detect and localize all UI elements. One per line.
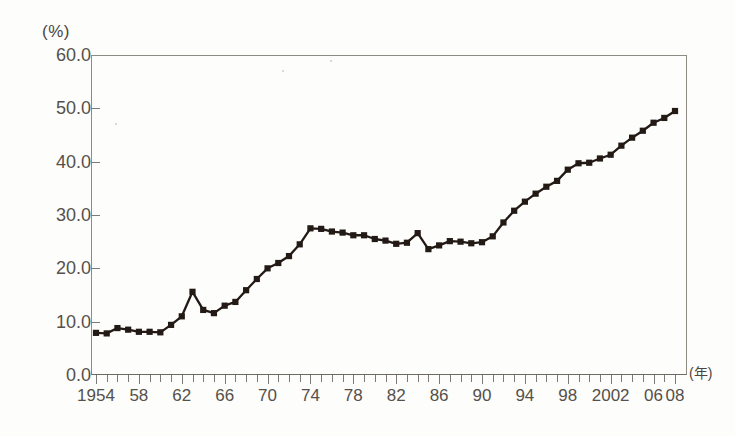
x-axis-minor-tick-mark — [643, 375, 644, 382]
x-axis-major-tick-mark — [675, 375, 676, 384]
y-axis-tick-label: 50.0 — [39, 98, 91, 119]
x-axis-minor-tick-mark — [461, 375, 462, 382]
y-axis-tick-label: 0.0 — [39, 365, 91, 386]
x-axis-minor-tick-mark — [664, 375, 665, 382]
x-axis-major-tick-mark — [439, 375, 440, 384]
x-axis-major-tick-mark — [139, 375, 140, 384]
y-axis: 0.010.020.030.040.050.060.0 — [30, 0, 91, 436]
y-axis-tick-label: 30.0 — [39, 205, 91, 226]
x-axis-major-tick-mark — [225, 375, 226, 384]
x-axis-tick-label: 08 — [666, 386, 685, 406]
x-axis-minor-tick-mark — [107, 375, 108, 382]
x-axis-minor-tick-mark — [546, 375, 547, 382]
x-axis-major-tick-mark — [482, 375, 483, 384]
x-axis-minor-tick-mark — [235, 375, 236, 382]
x-axis-tick-label: 06 — [644, 386, 663, 406]
y-axis-tick-label: 60.0 — [39, 45, 91, 66]
x-axis-minor-tick-mark — [214, 375, 215, 382]
x-axis-tick-label: 70 — [258, 386, 277, 406]
y-axis-tick-mark — [91, 268, 100, 269]
y-axis-tick-label: 10.0 — [39, 311, 91, 332]
x-axis-major-tick-mark — [268, 375, 269, 384]
x-axis-major-tick-mark — [396, 375, 397, 384]
x-axis-tick-label: 98 — [558, 386, 577, 406]
x-axis-minor-tick-mark — [514, 375, 515, 382]
x-axis-minor-tick-mark — [364, 375, 365, 382]
x-axis-minor-tick-mark — [278, 375, 279, 382]
x-axis-tick-label: 90 — [473, 386, 492, 406]
x-axis-minor-tick-mark — [589, 375, 590, 382]
x-axis-major-tick-mark — [611, 375, 612, 384]
scan-speck — [330, 60, 332, 62]
x-axis-minor-tick-mark — [193, 375, 194, 382]
x-axis-minor-tick-mark — [289, 375, 290, 382]
x-axis-minor-tick-mark — [150, 375, 151, 382]
x-axis-minor-tick-mark — [117, 375, 118, 382]
x-axis-tick-label: 78 — [344, 386, 363, 406]
x-axis-minor-tick-mark — [160, 375, 161, 382]
x-axis-minor-tick-mark — [632, 375, 633, 382]
x-axis-minor-tick-mark — [418, 375, 419, 382]
x-axis-minor-tick-mark — [321, 375, 322, 382]
x-axis-minor-tick-mark — [428, 375, 429, 382]
x-axis-minor-tick-mark — [300, 375, 301, 382]
x-axis-major-tick-mark — [525, 375, 526, 384]
chart-container: (%) 0.010.020.030.040.050.060.0 19545862… — [0, 0, 735, 436]
plot-area — [91, 55, 687, 375]
x-axis-minor-tick-mark — [171, 375, 172, 382]
x-axis-tick-label: 86 — [430, 386, 449, 406]
x-axis-minor-tick-mark — [128, 375, 129, 382]
x-axis-minor-tick-mark — [600, 375, 601, 382]
x-axis-tick-label: 74 — [301, 386, 320, 406]
x-axis-minor-tick-mark — [257, 375, 258, 382]
y-axis-tick-mark — [91, 108, 100, 109]
x-axis-major-tick-mark — [96, 375, 97, 384]
x-axis-tick-label: 58 — [129, 386, 148, 406]
x-axis-major-tick-mark — [654, 375, 655, 384]
x-axis-tick-label: 62 — [172, 386, 191, 406]
x-axis-major-tick-mark — [182, 375, 183, 384]
x-axis-tick-label: 1954 — [77, 386, 115, 406]
x-axis-minor-tick-mark — [557, 375, 558, 382]
x-axis-major-tick-mark — [310, 375, 311, 384]
x-axis-minor-tick-mark — [407, 375, 408, 382]
x-axis-minor-tick-mark — [332, 375, 333, 382]
x-axis-minor-tick-mark — [621, 375, 622, 382]
x-axis-minor-tick-mark — [386, 375, 387, 382]
x-axis-minor-tick-mark — [343, 375, 344, 382]
x-axis-tick-label: 82 — [387, 386, 406, 406]
y-axis-tick-label: 40.0 — [39, 151, 91, 172]
x-axis-major-tick-mark — [353, 375, 354, 384]
x-axis-minor-tick-mark — [471, 375, 472, 382]
x-axis-minor-tick-mark — [375, 375, 376, 382]
x-axis-minor-tick-mark — [450, 375, 451, 382]
y-axis-tick-mark — [91, 162, 100, 163]
y-axis-tick-label: 20.0 — [39, 258, 91, 279]
scan-speck — [282, 70, 284, 72]
x-axis-tick-label: 2002 — [592, 386, 630, 406]
x-axis-minor-tick-mark — [493, 375, 494, 382]
x-axis-tick-label: 66 — [215, 386, 234, 406]
scan-speck — [115, 123, 117, 125]
x-axis-minor-tick-mark — [246, 375, 247, 382]
x-axis-minor-tick-mark — [536, 375, 537, 382]
y-axis-tick-mark — [91, 215, 100, 216]
x-axis-unit-label: (年) — [689, 362, 712, 382]
x-axis-major-tick-mark — [568, 375, 569, 384]
y-axis-tick-mark — [91, 322, 100, 323]
x-axis-minor-tick-mark — [579, 375, 580, 382]
x-axis-minor-tick-mark — [503, 375, 504, 382]
x-axis-minor-tick-mark — [203, 375, 204, 382]
x-axis-tick-label: 94 — [515, 386, 534, 406]
